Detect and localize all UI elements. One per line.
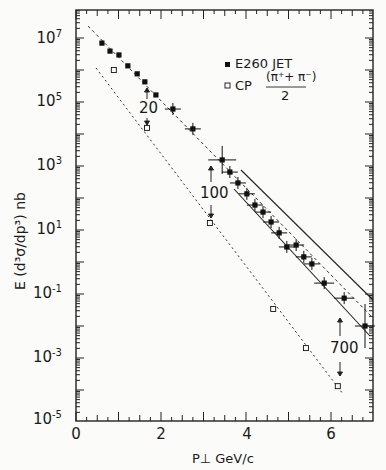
- y-tick-label: 105: [22, 91, 62, 110]
- y-tick-label: 10-5: [22, 409, 62, 428]
- y-tick-label: 107: [22, 28, 62, 47]
- x-tick-label: 2: [151, 425, 171, 443]
- y-tick-label: 10-3: [22, 347, 62, 366]
- x-tick-label: 6: [321, 425, 341, 443]
- y-tick-label: 10-1: [22, 283, 62, 302]
- ratio-label-20: 20: [139, 99, 158, 117]
- y-tick-label: 101: [22, 219, 62, 238]
- legend-cp-label: CP: [235, 78, 252, 93]
- legend-jet-label: E260 JET: [235, 56, 292, 71]
- axis-ticks: [76, 10, 373, 421]
- ratio-arrows: [145, 88, 343, 376]
- y-tick-label: 103: [22, 155, 62, 174]
- x-tick-label: 4: [237, 425, 257, 443]
- ratio-label-700: 700: [330, 339, 359, 357]
- legend-cp-marker: [225, 83, 230, 88]
- legend-cp-numerator: (π⁺+ π⁻): [266, 70, 316, 84]
- legend-jet-marker: [225, 62, 230, 67]
- x-axis-label: P⊥ GeV/c: [192, 451, 254, 466]
- plot-frame: [76, 10, 373, 421]
- y-axis-label: E (d³σ/dp³) nb: [12, 192, 28, 290]
- x-tick-label: 0: [66, 425, 86, 443]
- legend-cp-denominator: 2: [281, 88, 289, 103]
- ratio-label-100: 100: [200, 184, 229, 202]
